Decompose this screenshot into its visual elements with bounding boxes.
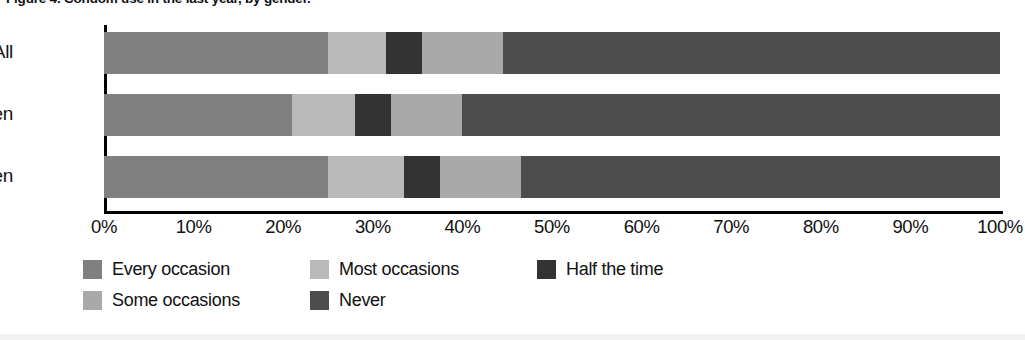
legend-swatch-icon: [83, 260, 102, 279]
plot-area: [104, 25, 1000, 210]
x-tick-label: 0%: [91, 216, 117, 238]
legend-item: Every occasion: [83, 259, 310, 280]
x-tick-label: 80%: [803, 216, 839, 238]
bar-segment: [355, 94, 391, 136]
bar-segment: [328, 156, 404, 198]
bar-segment: [521, 156, 1000, 198]
x-tick-label: 40%: [444, 216, 480, 238]
bar-segment: [462, 94, 1000, 136]
x-tick-label: 70%: [713, 216, 749, 238]
legend-label: Half the time: [566, 259, 663, 280]
legend-label: Some occasions: [112, 290, 240, 311]
bar-segment: [386, 32, 422, 74]
bar-segment: [503, 32, 1000, 74]
bar-segment: [440, 156, 521, 198]
legend-item: Half the time: [537, 259, 743, 280]
x-tick-label: 50%: [534, 216, 570, 238]
bar-segment: [104, 94, 292, 136]
x-tick-label: 10%: [176, 216, 212, 238]
category-label-men: Men: [0, 165, 13, 187]
bar-segment: [104, 156, 328, 198]
x-tick-label: 100%: [977, 216, 1023, 238]
chart-legend: Every occasionMost occasionsHalf the tim…: [83, 254, 743, 316]
legend-item: Some occasions: [83, 290, 310, 311]
figure-container: Figure 4. Condom use in the last year, b…: [0, 0, 1025, 340]
category-label-women: Women: [0, 103, 13, 125]
category-label-all: All: [0, 41, 13, 63]
legend-label: Most occasions: [339, 259, 459, 280]
stacked-bar: [104, 94, 1000, 136]
legend-swatch-icon: [310, 260, 329, 279]
page-edge-artifact: [0, 334, 1025, 340]
legend-item: Never: [310, 290, 537, 311]
stacked-bar: [104, 156, 1000, 198]
x-tick-label: 20%: [265, 216, 301, 238]
legend-swatch-icon: [537, 260, 556, 279]
x-tick-label: 30%: [355, 216, 391, 238]
x-tick-label: 60%: [624, 216, 660, 238]
legend-label: Never: [339, 290, 386, 311]
bar-segment: [328, 32, 386, 74]
legend-swatch-icon: [83, 291, 102, 310]
x-axis-line: [104, 211, 1003, 214]
legend-item: Most occasions: [310, 259, 537, 280]
bar-segment: [391, 94, 463, 136]
bar-segment: [292, 94, 355, 136]
x-tick-label: 90%: [892, 216, 928, 238]
bar-segment: [422, 32, 503, 74]
bar-segment: [104, 32, 328, 74]
figure-title: Figure 4. Condom use in the last year, b…: [6, 0, 311, 6]
bar-segment: [404, 156, 440, 198]
stacked-bar: [104, 32, 1000, 74]
legend-swatch-icon: [310, 291, 329, 310]
legend-label: Every occasion: [112, 259, 230, 280]
